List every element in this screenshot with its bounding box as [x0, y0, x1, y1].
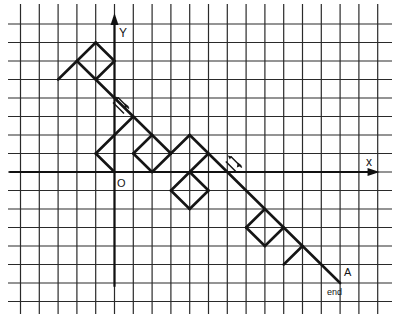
path-segment — [133, 135, 152, 154]
path-segment — [190, 172, 209, 191]
grid-path-diagram: x Y O A end — [0, 0, 402, 323]
path-segment — [190, 191, 209, 210]
path-segments — [58, 43, 340, 284]
end-note: end — [327, 287, 342, 297]
path-segment — [96, 61, 115, 80]
path-segment — [284, 246, 303, 265]
path-segment — [171, 135, 190, 154]
path-segment — [265, 228, 284, 247]
path-segment — [171, 172, 190, 191]
path-segment — [246, 228, 265, 247]
path-segment — [190, 154, 209, 173]
y-axis-arrowhead-icon — [111, 13, 119, 25]
path-segment — [96, 43, 115, 62]
path-segment — [133, 154, 152, 173]
y-axis-label: Y — [119, 26, 127, 40]
path-segment — [152, 154, 171, 173]
endpoint-label: A — [344, 266, 352, 278]
origin-label: O — [117, 177, 126, 189]
x-axis-label: x — [366, 155, 372, 169]
path-segment — [171, 191, 190, 210]
path-segment — [246, 209, 265, 228]
path-segment — [96, 154, 115, 173]
grid-lines — [8, 4, 392, 314]
direction-arrow-icon — [98, 145, 104, 151]
path-segment — [77, 61, 171, 154]
